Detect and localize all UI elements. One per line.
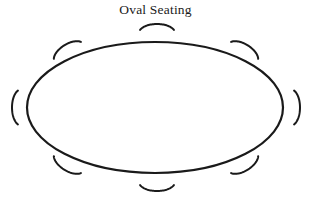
chair-bottom-center xyxy=(140,185,174,191)
chair-left xyxy=(12,91,18,125)
chair-right xyxy=(294,91,300,125)
chair-top-center xyxy=(140,24,174,30)
seating-canvas xyxy=(0,0,311,203)
oval-table xyxy=(27,42,283,173)
seating-diagram: Oval Seating xyxy=(0,0,311,203)
